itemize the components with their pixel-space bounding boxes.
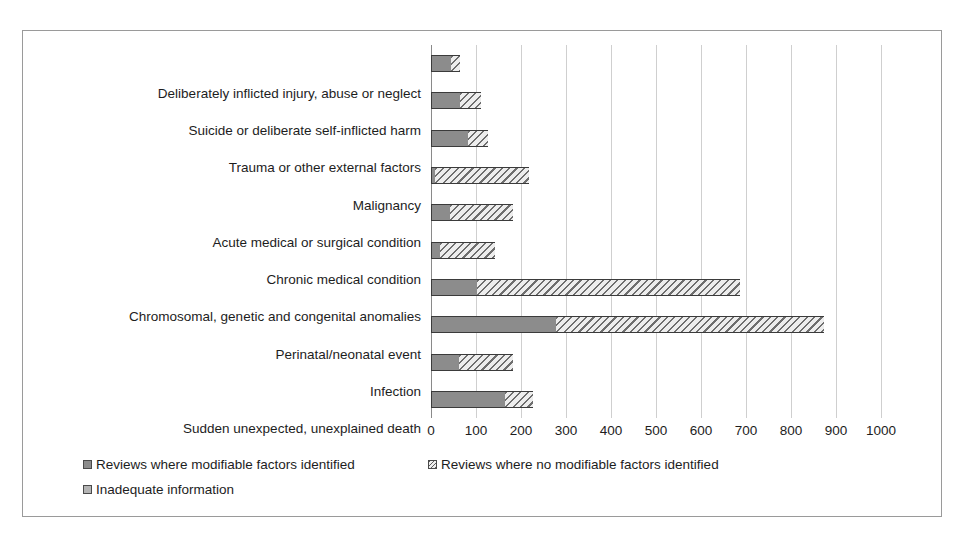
x-tick-label: 800 [780, 423, 803, 439]
x-tick-label: 100 [465, 423, 488, 439]
legend-entry-inadequate: Inadequate information [83, 482, 428, 498]
bar-segment-series1[interactable] [505, 391, 533, 408]
bar-stack[interactable] [431, 92, 481, 109]
bar-segment-series0[interactable] [431, 92, 460, 109]
bar-segment-series0[interactable] [431, 204, 450, 221]
category-label: Trauma or other external factors [41, 160, 421, 176]
x-tick-label: 500 [645, 423, 668, 439]
x-tick-label: 1000 [866, 423, 896, 439]
bar-stack[interactable] [431, 55, 460, 72]
bar-row[interactable] [431, 381, 533, 418]
bar-segment-series0[interactable] [431, 354, 459, 371]
category-axis-labels: Deliberately inflicted injury, abuse or … [41, 75, 421, 448]
legend-entry-no-modifiable: Reviews where no modifiable factors iden… [428, 457, 719, 473]
category-label: Suicide or deliberate self-inflicted har… [41, 123, 421, 139]
legend-label-series2: Inadequate information [96, 482, 234, 498]
x-tick-label: 400 [600, 423, 623, 439]
bar-row[interactable] [431, 306, 824, 343]
bar-segment-series0[interactable] [431, 130, 468, 147]
bar-segment-series1[interactable] [440, 242, 495, 259]
category-label: Sudden unexpected, unexplained death [41, 421, 421, 437]
x-tick-label: 900 [825, 423, 848, 439]
legend-label-series0: Reviews where modifiable factors identif… [96, 457, 355, 473]
bar-row[interactable] [431, 45, 460, 82]
bar-row[interactable] [431, 157, 529, 194]
bar-segment-series1[interactable] [450, 204, 513, 221]
legend-row-2: Inadequate information [83, 477, 923, 502]
bar-segment-series0[interactable] [431, 391, 505, 408]
bar-segment-series1[interactable] [477, 279, 739, 296]
bar-row[interactable] [431, 82, 481, 119]
x-tick-label: 600 [690, 423, 713, 439]
bars-layer [431, 45, 881, 418]
legend-swatch-icon-series1 [428, 460, 437, 469]
bar-row[interactable] [431, 269, 740, 306]
bar-segment-series0[interactable] [431, 55, 451, 72]
x-tick-label: 300 [555, 423, 578, 439]
bar-stack[interactable] [431, 242, 495, 259]
bar-segment-series1[interactable] [468, 130, 488, 147]
x-tick-label: 700 [735, 423, 758, 439]
bar-row[interactable] [431, 343, 513, 380]
bar-stack[interactable] [431, 204, 513, 221]
plot-area [431, 45, 881, 418]
bar-segment-series1[interactable] [556, 316, 824, 333]
category-label: Malignancy [41, 198, 421, 214]
bar-row[interactable] [431, 232, 495, 269]
bar-stack[interactable] [431, 354, 513, 371]
category-label: Acute medical or surgical condition [41, 235, 421, 251]
bar-stack[interactable] [431, 391, 533, 408]
bar-row[interactable] [431, 194, 513, 231]
bar-segment-series0[interactable] [431, 242, 440, 259]
category-label: Chromosomal, genetic and congenital anom… [41, 309, 421, 325]
category-label: Perinatal/neonatal event [41, 347, 421, 363]
legend-swatch-icon-series0 [83, 460, 92, 469]
bar-stack[interactable] [431, 167, 529, 184]
legend-label-series1: Reviews where no modifiable factors iden… [441, 457, 719, 473]
legend-swatch-icon-series2 [83, 485, 92, 494]
bar-segment-series1[interactable] [460, 92, 480, 109]
category-label: Deliberately inflicted injury, abuse or … [41, 86, 421, 102]
bar-segment-series0[interactable] [431, 316, 556, 333]
bar-row[interactable] [431, 120, 488, 157]
chart-legend: Reviews where modifiable factors identif… [83, 452, 923, 502]
bar-segment-series0[interactable] [431, 279, 477, 296]
bar-stack[interactable] [431, 316, 824, 333]
gridline-1000 [881, 45, 882, 418]
bar-segment-series1[interactable] [459, 354, 513, 371]
bar-stack[interactable] [431, 130, 488, 147]
category-label: Infection [41, 384, 421, 400]
bar-stack[interactable] [431, 279, 740, 296]
chart-frame: Deliberately inflicted injury, abuse or … [22, 30, 942, 517]
x-tick-label: 200 [510, 423, 533, 439]
bar-segment-series1[interactable] [451, 55, 460, 72]
category-label: Chronic medical condition [41, 272, 421, 288]
legend-entry-modifiable: Reviews where modifiable factors identif… [83, 457, 428, 473]
bar-segment-series1[interactable] [435, 167, 530, 184]
legend-row-1: Reviews where modifiable factors identif… [83, 452, 923, 477]
x-tick-label: 0 [427, 423, 435, 439]
x-axis-tick-labels: 01002003004005006007008009001000 [431, 423, 891, 445]
